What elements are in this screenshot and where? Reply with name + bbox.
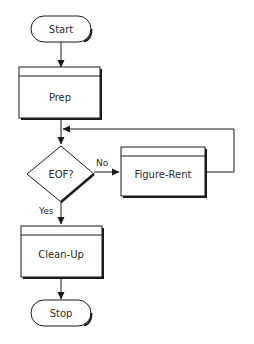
flowchart-canvas: Start Prep EOF? No Figure-Rent Yes Clean…: [0, 0, 254, 344]
figure-rent-label: Figure-Rent: [134, 169, 191, 180]
figure-rent-process-box: Figure-Rent: [121, 147, 207, 198]
prep-label: Prep: [49, 92, 71, 103]
cleanup-label: Clean-Up: [38, 249, 84, 260]
eof-decision-diamond: EOF?: [27, 146, 94, 202]
prep-process-box: Prep: [19, 67, 102, 120]
cleanup-process-box: Clean-Up: [21, 226, 104, 279]
stop-terminal: Stop: [31, 300, 92, 326]
yes-branch-label: Yes: [38, 206, 54, 216]
start-terminal: Start: [31, 16, 92, 42]
no-branch-label: No: [96, 158, 109, 168]
eof-label: EOF?: [48, 169, 73, 180]
start-label: Start: [49, 24, 74, 35]
stop-label: Stop: [50, 308, 73, 319]
